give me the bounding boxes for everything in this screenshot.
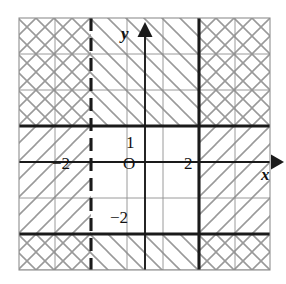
y-tick-label-1: 1 (126, 134, 135, 151)
origin-label: O (123, 155, 135, 172)
coordinate-plane-svg (0, 0, 286, 284)
x-tick-label-2: 2 (184, 155, 193, 172)
region-right-middle (199, 126, 270, 234)
region-bottom-right (199, 234, 270, 270)
x-axis-arrow-icon (271, 155, 284, 170)
y-tick-label-neg-2: −2 (110, 209, 128, 226)
y-axis-label: y (121, 25, 129, 42)
x-tick-label-neg-2: −2 (52, 155, 70, 172)
coordinate-plane-figure: y x 1 O −2 2 −2 (0, 0, 286, 284)
x-axis-label: x (261, 166, 270, 183)
region-top-right (199, 18, 270, 126)
